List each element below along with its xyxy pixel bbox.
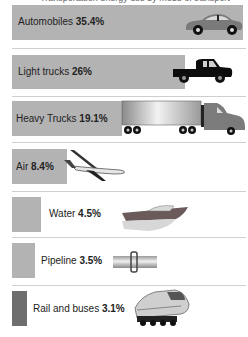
header-cut-text: Transportation energy use by mode of tra… <box>40 0 230 3</box>
airplane-icon <box>62 148 128 182</box>
label-water: Water 4.5% <box>49 208 101 220</box>
semi-truck-icon <box>121 99 247 137</box>
bar-rail-and-buses <box>12 291 27 326</box>
label-air: Air 8.4% <box>16 161 54 173</box>
bar-water <box>12 197 41 232</box>
divider <box>12 96 246 97</box>
divider <box>12 48 246 49</box>
label-pipeline: Pipeline 3.5% <box>41 255 102 267</box>
pickup-truck-icon <box>172 57 234 85</box>
divider <box>12 237 246 238</box>
label-light-trucks: Light trucks 26% <box>18 66 92 78</box>
divider <box>12 142 246 143</box>
bar-pipeline <box>12 243 35 278</box>
label-automobiles: Automobiles 35.4% <box>18 16 104 28</box>
label-heavy-trucks: Heavy Trucks 19.1% <box>16 113 108 125</box>
train-icon <box>131 288 191 328</box>
pipeline-icon <box>112 250 158 274</box>
boat-icon <box>118 203 194 233</box>
car-icon <box>184 12 244 36</box>
divider <box>12 191 246 192</box>
label-rail-and-buses: Rail and buses 3.1% <box>33 303 125 315</box>
divider <box>12 285 246 286</box>
